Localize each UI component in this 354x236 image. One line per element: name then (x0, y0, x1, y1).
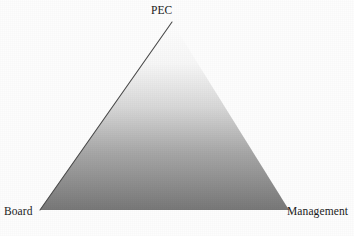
triangle-diagram-svg (0, 0, 354, 236)
triangle-diagram-figure: PEC Board Management (0, 0, 354, 236)
vertex-label-board: Board (4, 205, 33, 218)
vertex-label-pec: PEC (151, 4, 172, 17)
triangle-shape (40, 22, 289, 210)
vertex-label-management: Management (287, 205, 348, 218)
